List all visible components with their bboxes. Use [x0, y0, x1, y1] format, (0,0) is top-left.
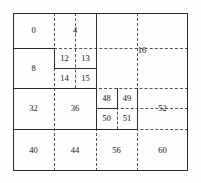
quadtree-cell-0: 0 — [13, 13, 54, 48]
cell-label: 52 — [158, 104, 167, 113]
quadtree-cell-14: 14 — [54, 68, 75, 88]
quadtree-cell-56: 56 — [96, 129, 137, 171]
quadtree-cell-44: 44 — [54, 129, 96, 171]
cell-label: 40 — [29, 146, 38, 155]
quadtree-cell-60: 60 — [137, 129, 188, 171]
cell-label: 14 — [60, 74, 69, 83]
quadtree-cell-40: 40 — [13, 129, 54, 171]
quadtree-cell-48: 48 — [96, 88, 117, 108]
quadtree-cell-8: 8 — [13, 48, 54, 88]
cell-label: 15 — [81, 74, 90, 83]
cell-label: 51 — [123, 114, 132, 123]
quadtree-cell-16: 16 — [96, 13, 188, 88]
cell-label: 60 — [158, 146, 167, 155]
quadtree-cell-13: 13 — [75, 48, 96, 68]
cell-label: 50 — [102, 114, 111, 123]
cell-label: 16 — [138, 46, 147, 55]
cell-label: 32 — [29, 104, 38, 113]
quadtree-cell-52: 52 — [137, 88, 188, 129]
cell-label: 8 — [31, 64, 35, 73]
quadtree-cell-50: 50 — [96, 108, 117, 129]
quadtree-cell-4: 4 — [54, 13, 96, 48]
cell-label: 48 — [102, 94, 111, 103]
quadtree-cell-15: 15 — [75, 68, 96, 88]
cell-label: 36 — [71, 104, 80, 113]
quadtree-figure: 04812131415163236484950515240445660 — [0, 0, 201, 183]
cell-label: 0 — [31, 26, 35, 35]
cell-label: 56 — [112, 146, 121, 155]
cell-label: 4 — [73, 26, 77, 35]
quadtree-cell-12: 12 — [54, 48, 75, 68]
cell-label: 44 — [71, 146, 80, 155]
quadtree-cell-49: 49 — [117, 88, 137, 108]
cell-label: 49 — [123, 94, 132, 103]
cell-label: 12 — [60, 54, 69, 63]
quadtree-cell-36: 36 — [54, 88, 96, 129]
cell-label: 13 — [81, 54, 90, 63]
quadtree-cell-32: 32 — [13, 88, 54, 129]
quadtree-cell-51: 51 — [117, 108, 137, 129]
